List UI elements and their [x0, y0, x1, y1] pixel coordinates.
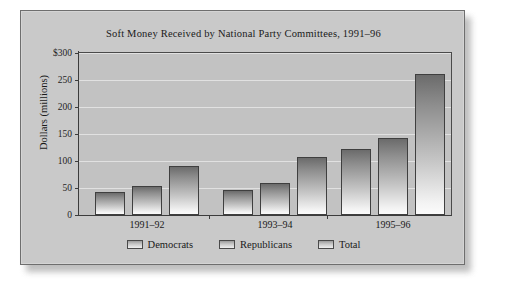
bar-democrats-1991-92: [95, 192, 125, 215]
legend-label: Democrats: [148, 239, 193, 250]
x-axis-category-label: 1991–92: [130, 219, 165, 230]
y-axis-tick-label: $300: [53, 48, 79, 58]
bar-republicans-1993-94: [260, 183, 290, 215]
bar-democrats-1993-94: [223, 190, 253, 215]
y-axis-tick-mark: [75, 215, 79, 216]
x-axis-tick-mark: [209, 215, 210, 219]
bar-total-1993-94: [297, 157, 327, 215]
y-axis-tick-label: 250: [58, 75, 79, 85]
x-axis-category-label: 1993–94: [258, 219, 293, 230]
y-axis-title: Dollars (millions): [38, 53, 49, 173]
bar-total-1995-96: [415, 74, 445, 215]
bar-republicans-1991-92: [132, 186, 162, 215]
bar-total-1991-92: [169, 166, 199, 215]
y-axis-tick-label: 100: [58, 156, 79, 166]
legend-item-total[interactable]: Total: [318, 239, 360, 250]
y-axis-tick-label: 150: [58, 129, 79, 139]
bars-layer: [79, 53, 451, 215]
legend-swatch-icon: [127, 240, 143, 249]
y-axis-tick-label: 0: [67, 210, 79, 220]
chart-title: Soft Money Received by National Party Co…: [21, 28, 466, 39]
legend-label: Republicans: [240, 239, 292, 250]
legend-item-democrats[interactable]: Democrats: [127, 239, 193, 250]
x-axis-tick-mark: [327, 215, 328, 219]
plot-area: 050100150200250$300: [79, 52, 452, 216]
legend-item-republicans[interactable]: Republicans: [219, 239, 292, 250]
bar-democrats-1995-96: [341, 149, 371, 215]
bar-republicans-1995-96: [378, 138, 408, 215]
screenshot-root: Soft Money Received by National Party Co…: [0, 0, 509, 289]
legend-label: Total: [339, 239, 360, 250]
y-axis-tick-label: 50: [63, 183, 80, 193]
y-axis-tick-label: 200: [58, 102, 79, 112]
x-axis-category-label: 1995–96: [376, 219, 411, 230]
chart-legend: DemocratsRepublicansTotal: [21, 239, 466, 250]
chart-card: Soft Money Received by National Party Co…: [20, 10, 465, 265]
legend-swatch-icon: [219, 240, 235, 249]
legend-swatch-icon: [318, 240, 334, 249]
